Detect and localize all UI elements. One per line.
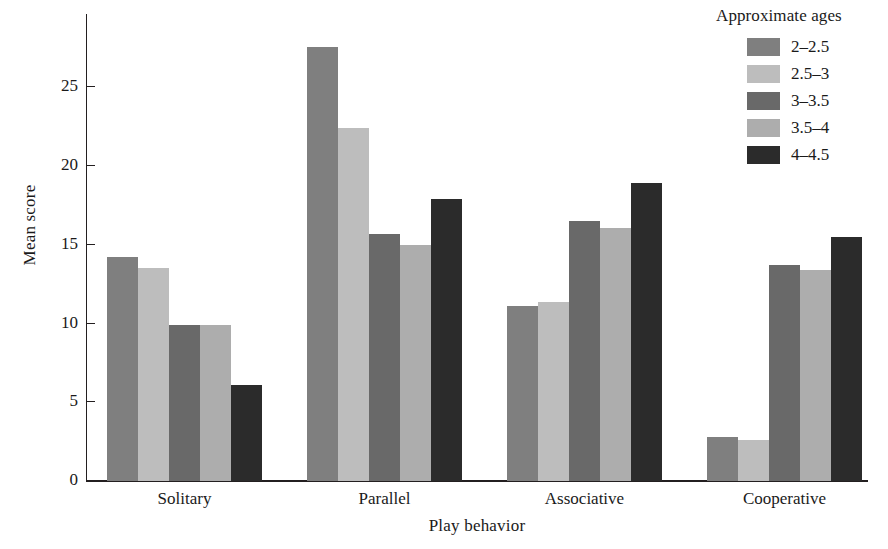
legend-swatch [747, 92, 780, 110]
legend-label: 2.5–3 [791, 65, 829, 82]
y-axis-tick-label: 25 [36, 77, 78, 94]
y-axis-tick-label: 20 [36, 156, 78, 173]
bar [107, 257, 138, 481]
bar [600, 228, 631, 481]
legend-label: 4–4.5 [791, 146, 829, 163]
legend-label: 3.5–4 [791, 119, 829, 136]
bar-group [307, 15, 462, 481]
y-axis-tick-label: 15 [36, 235, 78, 252]
legend: Approximate ages 2–2.52.5–33–3.53.5–44–4… [714, 6, 888, 168]
bar [369, 234, 400, 481]
legend-entry: 2–2.5 [747, 33, 888, 60]
legend-entry: 4–4.5 [747, 141, 888, 168]
bar [707, 437, 738, 481]
bar [338, 128, 369, 481]
bar [200, 325, 231, 481]
legend-swatch [747, 119, 780, 137]
bar [400, 245, 431, 481]
bar [507, 306, 538, 481]
bar [769, 265, 800, 481]
legend-swatch [747, 146, 780, 164]
x-axis-tick-label: Cooperative [707, 489, 862, 509]
bar [169, 325, 200, 481]
x-axis-tick-label: Solitary [107, 489, 262, 509]
bar [231, 385, 262, 481]
bar [631, 183, 662, 481]
bar [800, 270, 831, 481]
bar [138, 268, 169, 481]
legend-entries: 2–2.52.5–33–3.53.5–44–4.5 [714, 33, 888, 168]
bar [831, 237, 862, 481]
legend-entry: 3.5–4 [747, 114, 888, 141]
x-axis-tick-label: Associative [507, 489, 662, 509]
bar-group [107, 15, 262, 481]
y-axis-tick-label: 5 [36, 392, 78, 409]
bar-group [507, 15, 662, 481]
x-axis-tick-label: Parallel [307, 489, 462, 509]
y-axis-tick-label: 0 [36, 471, 78, 488]
legend-title: Approximate ages [716, 6, 888, 26]
legend-swatch [747, 38, 780, 56]
legend-label: 2–2.5 [791, 38, 829, 55]
bar [431, 199, 462, 481]
y-axis-title: Mean score [20, 155, 40, 295]
bar [307, 47, 338, 482]
legend-label: 3–3.5 [791, 92, 829, 109]
bar [738, 440, 769, 481]
bar [538, 302, 569, 481]
legend-entry: 3–3.5 [747, 87, 888, 114]
legend-swatch [747, 65, 780, 83]
legend-entry: 2.5–3 [747, 60, 888, 87]
bar-chart-figure: Mean score 0510152025 SolitaryParallelAs… [0, 0, 888, 549]
bar [569, 221, 600, 481]
y-axis-tick-label: 10 [36, 314, 78, 331]
x-axis-title: Play behavior [87, 516, 867, 536]
